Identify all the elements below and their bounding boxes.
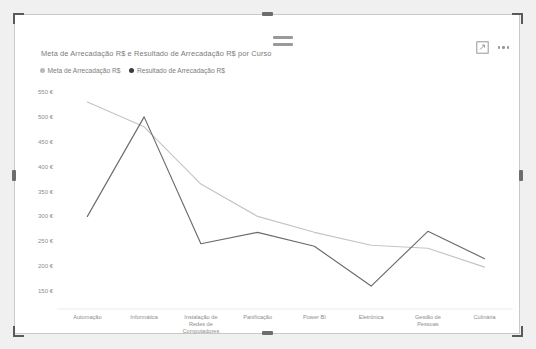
y-axis-tick-label: 150 €	[38, 288, 54, 294]
x-axis-tick-label[interactable]: Informática	[130, 314, 159, 320]
y-axis-tick-label: 500 €	[38, 114, 54, 120]
chart-plot-area[interactable]: 550 €500 €450 €400 €350 €300 €250 €200 €…	[15, 15, 521, 335]
powerbi-visual-container[interactable]: Meta de Arrecadação R$ e Resultado de Ar…	[14, 14, 520, 334]
y-axis-tick-label: 450 €	[38, 139, 54, 145]
x-axis-tick-label[interactable]: Panificação	[243, 314, 272, 320]
x-axis-tick-label[interactable]: Instalação deRedes deComputadores	[183, 314, 220, 334]
resize-handle-right[interactable]	[519, 170, 523, 181]
x-axis-tick-label[interactable]: Automação	[73, 314, 101, 320]
series-line-meta[interactable]	[87, 102, 484, 267]
x-axis-tick-label[interactable]: Eletrônica	[359, 314, 385, 320]
y-axis-tick-label: 250 €	[38, 238, 54, 244]
selection-handle-bottom-left[interactable]	[13, 326, 24, 337]
x-axis-tick-label[interactable]: Power BI	[303, 314, 326, 320]
y-axis-tick-label: 200 €	[38, 263, 54, 269]
y-axis-tick-label: 350 €	[38, 189, 54, 195]
screenshot-root: Meta de Arrecadação R$ e Resultado de Ar…	[0, 0, 536, 349]
resize-handle-top[interactable]	[262, 12, 273, 16]
y-axis-tick-label: 300 €	[38, 213, 54, 219]
y-axis-tick-label: 550 €	[38, 89, 54, 95]
selection-handle-top-right[interactable]	[512, 13, 523, 24]
x-axis-tick-label[interactable]: Culinária	[474, 314, 497, 320]
y-axis-tick-label: 400 €	[38, 164, 54, 170]
resize-handle-left[interactable]	[12, 170, 16, 181]
selection-handle-bottom-right[interactable]	[512, 326, 523, 337]
x-axis-tick-label[interactable]: Gestão dePessoas	[415, 314, 441, 327]
line-chart-svg: 550 €500 €450 €400 €350 €300 €250 €200 €…	[15, 15, 521, 335]
resize-handle-bottom[interactable]	[262, 331, 273, 335]
series-line-resultado[interactable]	[87, 117, 484, 286]
selection-handle-top-left[interactable]	[13, 13, 24, 24]
